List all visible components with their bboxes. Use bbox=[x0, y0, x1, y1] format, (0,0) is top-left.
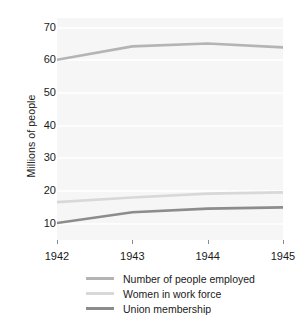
y-axis-tick-label: 50 bbox=[26, 87, 56, 98]
y-axis-tick-label: 60 bbox=[26, 54, 56, 65]
series-line bbox=[57, 192, 283, 202]
legend-item: Number of people employed bbox=[86, 272, 255, 285]
y-axis-tick-label: 30 bbox=[26, 152, 56, 163]
x-axis-tick-label: 1944 bbox=[185, 250, 231, 262]
legend-color-swatch bbox=[86, 307, 114, 310]
series-line bbox=[57, 207, 283, 223]
x-axis-tick-label: 1943 bbox=[109, 250, 155, 262]
plot-area bbox=[57, 18, 283, 240]
x-axis-tick-label: 1942 bbox=[34, 250, 80, 262]
x-axis-tick-mark bbox=[132, 240, 133, 244]
series-line bbox=[57, 43, 283, 59]
legend-label: Union membership bbox=[123, 303, 211, 315]
chart-legend: Number of people employedWomen in work f… bbox=[86, 272, 255, 315]
x-axis-tick-mark bbox=[57, 240, 58, 244]
x-axis-tick-mark bbox=[208, 240, 209, 244]
legend-item: Women in work force bbox=[86, 287, 255, 300]
x-axis-tick-mark bbox=[283, 240, 284, 244]
x-axis-tick-label: 1945 bbox=[260, 250, 306, 262]
y-axis-tick-label: 40 bbox=[26, 120, 56, 131]
y-axis-tick-label: 20 bbox=[26, 185, 56, 196]
legend-label: Number of people employed bbox=[123, 273, 255, 285]
line-chart-figure: Millions of people 10203040506070 194219… bbox=[0, 0, 308, 323]
legend-color-swatch bbox=[86, 292, 114, 295]
legend-color-swatch bbox=[86, 277, 114, 280]
legend-label: Women in work force bbox=[123, 288, 221, 300]
series-lines bbox=[57, 18, 283, 240]
y-axis-tick-label: 10 bbox=[26, 218, 56, 229]
legend-item: Union membership bbox=[86, 302, 255, 315]
y-axis-tick-label: 70 bbox=[26, 22, 56, 33]
